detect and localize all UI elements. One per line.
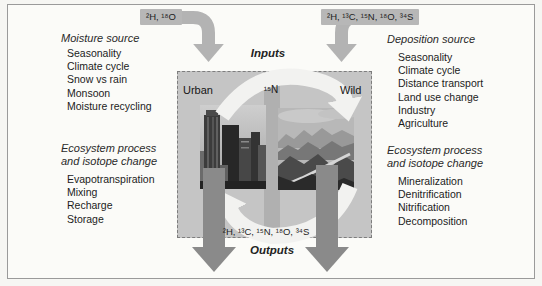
output-isotopes-label: ²H, ¹³C, ¹⁵N, ¹⁸O, ³⁴S [168,226,364,237]
list-item: Distance transport [398,77,483,90]
list-item: Seasonality [67,47,152,60]
list-item: Denitrification [398,188,467,201]
list-item: Agriculture [398,117,483,130]
moisture-source-list: Seasonality Climate cycle Snow vs rain M… [67,47,152,113]
inputs-label: Inputs [170,47,366,59]
list-item: Mixing [67,186,155,199]
list-item: Land use change [398,91,483,104]
list-item: Recharge [67,199,155,212]
list-item: Nitrification [398,201,467,214]
right-process-list: Mineralization Denitrification Nitrifica… [398,175,467,228]
left-process-list: Evapotranspiration Mixing Recharge Stora… [67,173,155,226]
list-item: Climate cycle [67,60,152,73]
list-item: Snow vs rain [67,73,152,86]
heading-line: and isotope change [387,157,483,170]
list-item: Storage [67,213,155,226]
urban-label: Urban [183,84,213,96]
list-item: Mineralization [398,175,467,188]
right-process-heading: Ecosystem process and isotope change [387,144,483,170]
list-item: Evapotranspiration [67,173,155,186]
wild-photo [278,108,354,190]
deposition-source-heading: Deposition source [387,33,475,46]
heading-line: Ecosystem process [387,144,483,157]
input-right-isotope-label: ²H, ¹³C, ¹⁵N, ¹⁸O, ³⁴S [321,9,419,25]
wild-label: Wild [340,84,361,96]
input-left-isotope-label: ²H, ¹⁸O [140,9,182,25]
list-item: Decomposition [398,215,467,228]
moisture-source-heading: Moisture source [61,32,139,45]
list-item: Monsoon [67,87,152,100]
urban-photo [200,105,266,189]
left-process-heading: Ecosystem process and isotope change [61,142,157,168]
outputs-label: Outputs [174,244,370,256]
deposition-source-list: Seasonality Climate cycle Distance trans… [398,51,483,130]
heading-line: and isotope change [61,155,157,168]
center-isotope-label: ¹⁵N [256,84,286,95]
list-item: Moisture recycling [67,100,152,113]
list-item: Seasonality [398,51,483,64]
list-item: Climate cycle [398,64,483,77]
list-item: Industry [398,104,483,117]
heading-line: Ecosystem process [61,142,157,155]
